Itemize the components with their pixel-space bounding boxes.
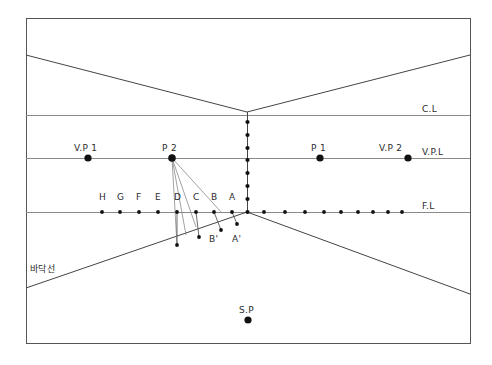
fl-left-dot-A [230, 210, 234, 214]
floor-line-1 [26, 212, 247, 288]
point-sp [244, 316, 251, 323]
prime-point-Aprime [235, 222, 239, 226]
ceiling-line-1 [26, 55, 247, 112]
point-vp2 [404, 154, 411, 161]
vertical-division-dot-4 [245, 158, 249, 162]
vertical-division-dot-7 [245, 197, 249, 201]
fl-left-label-E: E [155, 192, 161, 202]
label-fl: F.L [422, 201, 435, 211]
label-vpl: V.P.L [422, 147, 443, 157]
p2-ray-4 [172, 158, 222, 213]
fl-right-dot-6 [356, 210, 360, 214]
prime-point-Bprime [219, 228, 223, 232]
fl-right-dot-9 [400, 210, 404, 214]
fl-right-dot-1 [262, 210, 266, 214]
label-vp1: V.P 1 [74, 143, 97, 153]
fl-left-label-D: D [174, 192, 181, 202]
label-vp2: V.P 2 [379, 143, 402, 153]
prime-point-Cprime [197, 235, 201, 239]
point-vp1 [84, 154, 91, 161]
fl-left-dot-D [175, 210, 179, 214]
point-p1 [316, 154, 323, 161]
vertical-division-dot-5 [245, 171, 249, 175]
fl-left-label-C: C [193, 192, 200, 202]
fl-left-label-H: H [99, 192, 106, 202]
vertical-division-dot-6 [245, 184, 249, 188]
vertical-division-dot-8 [245, 210, 249, 214]
vertical-division-dot-3 [245, 146, 249, 150]
fl-left-label-G: G [117, 192, 124, 202]
label-cl: C.L [422, 104, 437, 114]
fl-right-dot-3 [303, 210, 307, 214]
drop-line-4 [232, 212, 237, 224]
fl-left-label-A: A [229, 192, 235, 202]
fl-left-dot-H [100, 210, 104, 214]
diagram-frame [27, 19, 471, 344]
fl-left-label-B: B [211, 192, 217, 202]
floor-line-2 [247, 212, 470, 294]
drop-line-2 [196, 212, 199, 237]
fl-left-dot-F [137, 210, 141, 214]
prime-point-Dprime [175, 243, 179, 247]
fl-right-dot-5 [339, 210, 343, 214]
fl-right-dot-8 [386, 210, 390, 214]
point-p2 [168, 154, 176, 162]
label-p2: P 2 [162, 143, 177, 153]
perspective-diagram-page: C.LV.P.LF.LHGFEDCBAA'B'V.P 1P 2P 1V.P 2S… [0, 0, 492, 365]
fl-left-dot-C [194, 210, 198, 214]
fl-right-dot-7 [371, 210, 375, 214]
fl-left-dot-B [212, 210, 216, 214]
prime-label-Bprime: B' [209, 234, 218, 244]
label-p1: P 1 [311, 143, 326, 153]
fl-left-dot-G [118, 210, 122, 214]
label-floor-line-korean: 바닥선 [30, 262, 55, 275]
vertical-division-dot-1 [245, 120, 249, 124]
fl-right-dot-2 [283, 210, 287, 214]
vertical-division-dot-2 [245, 133, 249, 137]
fl-left-dot-E [156, 210, 160, 214]
label-sp: S.P [239, 305, 254, 315]
prime-label-Aprime: A' [232, 234, 241, 244]
fl-left-label-F: F [136, 192, 141, 202]
fl-right-dot-4 [322, 210, 326, 214]
